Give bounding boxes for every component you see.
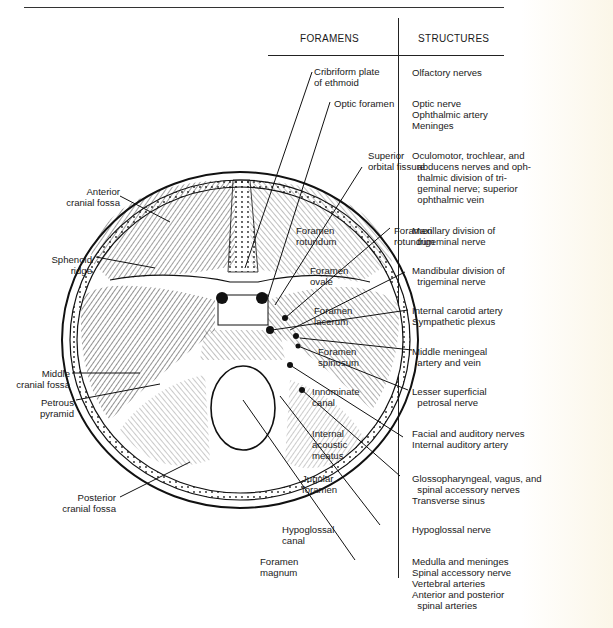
- label-foramen-rotundum-text: Foramen rotundum: [296, 225, 337, 247]
- label-foramen-lacerum-text: Foramen lacerum: [314, 305, 352, 327]
- label-anterior-cranial-fossa: Anterior cranial fossa: [30, 186, 120, 208]
- label-cribriform-plate: Cribriform plate of ethmoid: [314, 66, 380, 88]
- structures-jugular: Glossopharyngeal, vagus, and spinal acce…: [412, 473, 542, 506]
- label-hypoglossal-canal-text: Hypoglossal canal: [282, 524, 334, 546]
- label-sphenoid-ridge: Sphenoid ridge: [10, 254, 92, 276]
- structures-cribriform: Olfactory nerves: [412, 67, 482, 78]
- label-internal-acoustic-meatus-text: Internal acoustic meatus: [312, 428, 347, 461]
- label-foramen-spinosum-text: Foramen spinosum: [318, 346, 359, 368]
- structures-ovale: Mandibular division of trigeminal nerve: [412, 265, 505, 287]
- label-petrous-pyramid: Petrous pyramid: [0, 397, 74, 419]
- structures-magnum: Medulla and meninges Spinal accessory ne…: [412, 556, 511, 611]
- structures-optic: Optic nerve Ophthalmic artery Meninges: [412, 98, 488, 131]
- label-middle-cranial-fossa: Middle cranial fossa: [0, 368, 70, 390]
- label-jugular-foramen-text: Jugular foramen: [302, 473, 337, 495]
- structures-rotundum: Maxillary division of trigeminal nerve: [412, 225, 495, 247]
- label-posterior-cranial-fossa: Posterior cranial fossa: [30, 492, 116, 514]
- structures-innominate: Lesser superficial petrosal nerve: [412, 386, 487, 408]
- structures-hypoglossal: Hypoglossal nerve: [412, 524, 491, 535]
- structures-lacerum: Internal carotid artery Sympathetic plex…: [412, 305, 503, 327]
- structures-superior-orbital: Oculomotor, trochlear, and abducens nerv…: [412, 150, 531, 205]
- label-innominate-canal-text: Innominate canal: [312, 386, 359, 408]
- structures-spinosum: Middle meningeal artery and vein: [412, 346, 487, 368]
- structures-acoustic-meatus: Facial and auditory nerves Internal audi…: [412, 428, 525, 450]
- label-foramen-magnum-text: Foramen magnum: [260, 556, 298, 578]
- foramen-magnum-shape: [211, 366, 275, 450]
- label-foramen-ovale-text: Foramen ovale: [310, 265, 348, 287]
- label-optic-foramen: Optic foramen: [334, 98, 394, 109]
